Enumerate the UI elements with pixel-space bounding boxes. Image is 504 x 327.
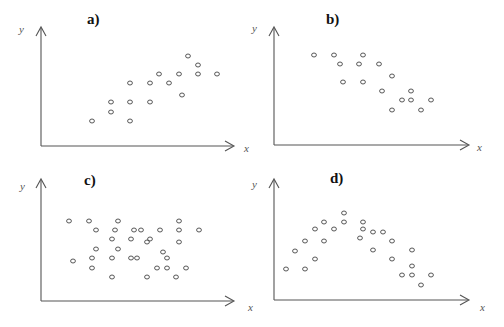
data-point-marker xyxy=(390,74,395,78)
data-point-marker xyxy=(410,264,415,268)
data-point-marker xyxy=(180,93,185,97)
data-point-marker xyxy=(361,53,366,57)
data-point-marker xyxy=(313,257,318,261)
data-point-marker xyxy=(110,256,115,260)
data-point-marker xyxy=(174,275,179,279)
data-point-marker xyxy=(177,219,182,223)
data-point-marker xyxy=(110,237,115,241)
data-point-marker xyxy=(135,256,140,260)
data-point-marker xyxy=(186,54,191,58)
data-point-marker xyxy=(342,220,347,224)
data-point-marker xyxy=(157,72,162,76)
data-point-marker xyxy=(400,98,405,102)
x-axis-label: x xyxy=(479,301,485,313)
data-point-marker xyxy=(128,119,133,123)
panel-label: d) xyxy=(330,170,343,187)
data-point-marker xyxy=(165,256,170,260)
data-point-marker xyxy=(419,283,424,287)
x-axis-label: x xyxy=(247,301,253,313)
data-point-marker xyxy=(94,228,99,232)
y-axis-label: y xyxy=(251,22,257,34)
data-point-marker xyxy=(184,266,189,270)
data-point-marker xyxy=(293,249,298,253)
data-point-marker xyxy=(148,81,153,85)
data-points xyxy=(284,211,434,287)
data-point-marker xyxy=(400,273,405,277)
data-point-marker xyxy=(116,247,121,251)
data-point-marker xyxy=(410,248,415,252)
panel-label: a) xyxy=(87,11,100,28)
data-point-marker xyxy=(338,62,343,66)
data-point-marker xyxy=(322,220,327,224)
data-point-marker xyxy=(429,98,434,102)
data-points xyxy=(90,54,220,123)
data-point-marker xyxy=(90,266,95,270)
data-point-marker xyxy=(128,81,133,85)
data-point-marker xyxy=(371,248,376,252)
data-point-marker xyxy=(148,237,153,241)
data-point-marker xyxy=(390,108,395,112)
data-point-marker xyxy=(90,119,95,123)
data-point-marker xyxy=(342,211,347,215)
data-point-marker xyxy=(341,80,346,84)
data-point-marker xyxy=(87,219,92,223)
data-point-marker xyxy=(361,227,366,231)
data-point-marker xyxy=(155,266,160,270)
data-point-marker xyxy=(158,228,163,232)
data-point-marker xyxy=(303,239,308,243)
data-point-marker xyxy=(361,220,366,224)
data-point-marker xyxy=(390,239,395,243)
data-point-marker xyxy=(67,219,72,223)
data-point-marker xyxy=(129,237,134,241)
data-point-marker xyxy=(377,62,382,66)
x-axis-label: x xyxy=(476,141,482,153)
panel-label: c) xyxy=(84,172,96,189)
panel-b: y x b) xyxy=(251,11,482,153)
data-point-marker xyxy=(332,53,337,57)
y-axis-label: y xyxy=(18,23,24,35)
scatter-figure: y x a) y x b) y x c) y x d) xyxy=(0,0,504,327)
data-points xyxy=(312,53,434,112)
data-point-marker xyxy=(390,257,395,261)
data-point-marker xyxy=(380,89,385,93)
data-point-marker xyxy=(94,247,99,251)
data-point-marker xyxy=(177,72,182,76)
data-point-marker xyxy=(177,240,182,244)
data-point-marker xyxy=(139,228,144,232)
data-point-marker xyxy=(303,267,308,271)
data-point-marker xyxy=(90,256,95,260)
y-axis-label: y xyxy=(19,180,25,192)
data-point-marker xyxy=(116,219,121,223)
data-point-marker xyxy=(313,227,318,231)
data-points xyxy=(67,219,202,279)
x-axis-label: x xyxy=(243,142,249,154)
data-point-marker xyxy=(145,275,150,279)
data-point-marker xyxy=(312,53,317,57)
data-point-marker xyxy=(361,80,366,84)
data-point-marker xyxy=(196,63,201,67)
panel-d: y x d) xyxy=(251,170,485,313)
data-point-marker xyxy=(381,230,386,234)
data-point-marker xyxy=(110,275,115,279)
data-point-marker xyxy=(148,100,153,104)
data-point-marker xyxy=(409,98,414,102)
panel-a: y x a) xyxy=(18,11,249,154)
data-point-marker xyxy=(128,100,133,104)
data-point-marker xyxy=(109,110,114,114)
data-point-marker xyxy=(165,266,170,270)
data-point-marker xyxy=(371,230,376,234)
data-point-marker xyxy=(71,259,76,263)
data-point-marker xyxy=(322,239,327,243)
data-point-marker xyxy=(132,228,137,232)
data-point-marker xyxy=(109,100,114,104)
data-point-marker xyxy=(167,81,172,85)
data-point-marker xyxy=(357,62,362,66)
data-point-marker xyxy=(197,228,202,232)
data-point-marker xyxy=(129,256,134,260)
panel-label: b) xyxy=(326,11,339,28)
data-point-marker xyxy=(332,227,337,231)
y-axis-label: y xyxy=(251,178,257,190)
data-point-marker xyxy=(409,89,414,93)
data-point-marker xyxy=(113,228,118,232)
data-point-marker xyxy=(429,273,434,277)
